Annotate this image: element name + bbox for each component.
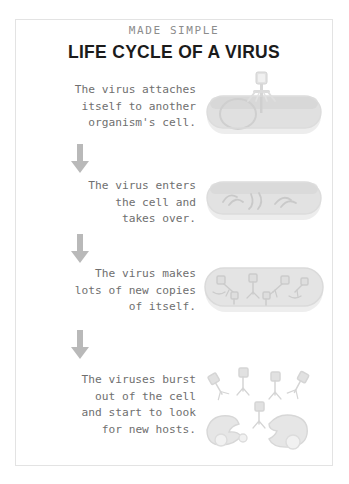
cell-lysis-viruses-released-illustration xyxy=(193,358,333,462)
virus-dna-inside-cell-illustration xyxy=(193,174,333,238)
virus-attaching-to-cell-illustration xyxy=(193,70,333,150)
stage-3: The virus makes lots of new copies of it… xyxy=(15,266,333,328)
poster: MADE SIMPLE LIFE CYCLE OF A VIRUS The vi… xyxy=(0,0,349,484)
poster-header: MADE SIMPLE LIFE CYCLE OF A VIRUS xyxy=(15,24,333,63)
stage-4-text: The viruses burst out of the cell and st… xyxy=(24,372,196,438)
stage-3-text: The virus makes lots of new copies of it… xyxy=(24,266,196,316)
stage-2: The virus enters the cell and takes over… xyxy=(15,178,333,236)
arrow-stage-1-to-2 xyxy=(15,144,333,174)
page-title: LIFE CYCLE OF A VIRUS xyxy=(15,41,333,63)
stage-1-text: The virus attaches itself to another org… xyxy=(24,82,196,132)
bacterial-cell-shape xyxy=(207,96,321,134)
arrow-stage-3-to-4 xyxy=(15,330,333,360)
ruptured-cell-fragments xyxy=(207,415,307,449)
bacterial-cell-shape xyxy=(205,268,323,312)
stage-1: The virus attaches itself to another org… xyxy=(15,82,333,144)
stage-2-text: The virus enters the cell and takes over… xyxy=(24,178,196,228)
poster-kicker: MADE SIMPLE xyxy=(15,24,333,38)
stage-4: The viruses burst out of the cell and st… xyxy=(15,372,333,454)
virus-replication-inside-cell-illustration xyxy=(193,258,333,328)
